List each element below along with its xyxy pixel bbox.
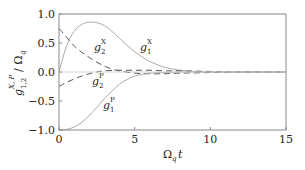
x-tick-label: 10 [203, 133, 217, 146]
x-tick-label: 5 [131, 133, 138, 146]
x-axis-label: Ω q t [163, 148, 183, 163]
svg-text:1: 1 [147, 48, 151, 56]
svg-text:P: P [99, 72, 104, 80]
label-g2p: g 2 P [92, 72, 104, 90]
label-g1x: g 1 X [140, 38, 152, 56]
x-tick-label: 15 [279, 133, 293, 146]
label-g1p: g 1 P [103, 96, 115, 114]
svg-text:P: P [110, 96, 115, 104]
y-tick-label: −1.0 [28, 124, 55, 137]
svg-text:1,2: 1,2 [20, 78, 28, 89]
svg-text:g: g [94, 41, 101, 54]
y-tick-label: 0.5 [38, 37, 56, 50]
svg-text:g: g [103, 99, 110, 112]
x-tick-label: 0 [56, 133, 63, 146]
svg-text:1: 1 [110, 106, 114, 114]
line-chart: 0510151.00.50.0−0.5−1.0 g 2 X g 1 X g 2 … [0, 0, 305, 170]
svg-text:g: g [92, 75, 99, 88]
svg-text:Ω: Ω [163, 148, 172, 161]
svg-text:q: q [172, 155, 177, 163]
y-axis-label: g 1,2 X, P / Ω q [8, 50, 28, 96]
y-tick-label: −0.5 [28, 95, 55, 108]
label-g2x: g 2 X [94, 38, 106, 56]
y-tick-label: 0.0 [38, 66, 56, 79]
svg-text:2: 2 [101, 48, 105, 56]
svg-text:X: X [147, 38, 152, 46]
svg-text:2: 2 [99, 82, 103, 90]
y-tick-label: 1.0 [38, 8, 56, 21]
svg-text:/ Ω: / Ω [12, 56, 25, 72]
svg-text:g: g [140, 41, 147, 54]
svg-text:q: q [19, 50, 27, 55]
svg-text:X, P: X, P [8, 75, 16, 90]
svg-text:g: g [12, 89, 25, 96]
svg-text:t: t [178, 148, 183, 161]
axis-ticks: 0510151.00.50.0−0.5−1.0 [28, 8, 293, 146]
svg-text:X: X [101, 38, 106, 46]
